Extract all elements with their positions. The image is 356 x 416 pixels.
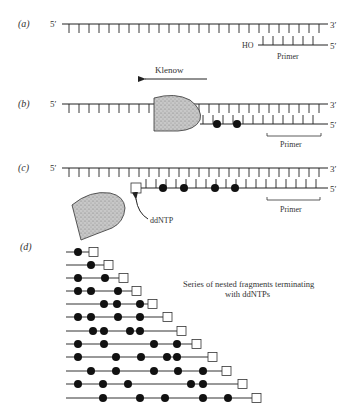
nested-fragments [66, 248, 261, 403]
labeled-nucleotide-dot [136, 327, 144, 335]
panel-a: (a) 5′ 3′ HO 5′ Primer Klenow [18, 18, 337, 79]
labeled-nucleotide-dot [211, 184, 219, 192]
panel-a-label: (a) [18, 18, 30, 30]
ddntp-label: ddNTP [150, 216, 174, 225]
labeled-nucleotide-dot [136, 313, 144, 321]
ddntp-square-icon [148, 300, 157, 309]
labeled-nucleotide-dot [173, 353, 181, 361]
template-3-prime-label: 3′ [330, 100, 337, 110]
labeled-nucleotide-dot [87, 261, 95, 269]
panel-c-label: (c) [18, 162, 30, 174]
labeled-nucleotide-dot [99, 380, 107, 388]
template-5-prime-label: 5′ [50, 163, 57, 173]
labeled-nucleotide-dot [187, 380, 195, 388]
labeled-nucleotide-dot [163, 353, 171, 361]
fragment-row [66, 340, 201, 349]
labeled-nucleotide-dot [150, 367, 158, 375]
template-3-prime-label: 3′ [330, 164, 337, 174]
ddntp-square-icon [222, 367, 231, 376]
labeled-nucleotide-dot [231, 184, 239, 192]
ddntp-square-icon [104, 261, 113, 270]
primer-base-ticks [263, 36, 313, 45]
labeled-nucleotide-dot [136, 394, 144, 402]
labeled-nucleotide-dot [74, 287, 82, 295]
labeled-nucleotide-dot [137, 353, 145, 361]
labeled-nucleotide-dot [136, 300, 144, 308]
labeled-nucleotide-dot [161, 394, 169, 402]
ddntp-square-icon [163, 313, 172, 322]
ddntp-square-icon [89, 248, 98, 257]
template-base-ticks [69, 168, 319, 177]
template-5-prime-label: 5′ [50, 19, 57, 29]
labeled-nucleotide-dot [199, 367, 207, 375]
fragment-row [66, 367, 231, 376]
labeled-nucleotide-dot [74, 340, 82, 348]
panel-d: (d) Series of nested fragments terminati… [20, 241, 315, 403]
klenow-enzyme-icon [154, 95, 201, 131]
klenow-label: Klenow [155, 65, 184, 75]
labeled-nucleotide-dot [87, 313, 95, 321]
template-5-prime-label: 5′ [50, 99, 57, 109]
labeled-nucleotide-dot [74, 248, 82, 256]
panel-c: (c) 5′ 3′ 5′ Primer ddNTP [18, 162, 337, 240]
labeled-nucleotide-dot [213, 120, 221, 128]
sanger-sequencing-diagram: (a) 5′ 3′ HO 5′ Primer Klenow (b) 5′ 3′ … [0, 0, 356, 416]
fragment-row [66, 300, 157, 309]
primer-5-prime-label: 5′ [330, 41, 337, 51]
labeled-nucleotide-dot [87, 287, 95, 295]
fragment-row [66, 248, 98, 257]
fragment-row [66, 353, 217, 362]
ddntp-square-icon [252, 394, 261, 403]
ddntp-square-icon [131, 183, 141, 193]
terminated-5-prime-label: 5′ [330, 184, 337, 194]
labeled-nucleotide-dot [100, 340, 108, 348]
labeled-nucleotide-dot [101, 274, 109, 282]
terminated-strand-ticks [146, 179, 316, 188]
released-klenow-enzyme-icon [72, 193, 125, 241]
fragment-row [66, 380, 247, 389]
labeled-nucleotide-dot [159, 184, 167, 192]
labeled-nucleotide-dot [74, 274, 82, 282]
labeled-nucleotide-dot [112, 353, 120, 361]
labeled-nucleotide-dot [174, 367, 182, 375]
ddntp-square-icon [192, 340, 201, 349]
panel-b: (b) 5′ 3′ 5′ Primer [18, 95, 337, 149]
labeled-nucleotide-dot [233, 120, 241, 128]
fragment-row [66, 287, 141, 296]
labeled-nucleotide-dot [99, 394, 107, 402]
ddntp-square-icon [132, 287, 141, 296]
template-base-ticks [69, 24, 319, 33]
primer-bracket [267, 197, 320, 200]
fragment-row [66, 327, 186, 336]
caption-line-1: Series of nested fragments terminating [183, 279, 315, 289]
labeled-nucleotide-dot [74, 380, 82, 388]
primer-label: Primer [277, 52, 299, 61]
ddntp-square-icon [208, 353, 217, 362]
labeled-nucleotide-dot [74, 353, 82, 361]
fragment-row [66, 274, 128, 283]
primer-label: Primer [280, 140, 302, 149]
labeled-nucleotide-dot [112, 367, 120, 375]
template-3-prime-label: 3′ [330, 20, 337, 30]
fragment-row [66, 313, 172, 322]
labeled-nucleotide-dot [114, 287, 122, 295]
labeled-nucleotide-dot [199, 380, 207, 388]
ddntp-square-icon [238, 380, 247, 389]
labeled-nucleotide-dot [74, 313, 82, 321]
labeled-nucleotide-dot [173, 340, 181, 348]
panel-b-label: (b) [18, 98, 30, 110]
primer-ho-label: HO [242, 41, 254, 50]
labeled-nucleotide-dot [89, 327, 97, 335]
fragment-row [66, 394, 261, 403]
labeled-nucleotide-dot [87, 367, 95, 375]
ddntp-square-icon [177, 327, 186, 336]
labeled-nucleotide-dot [224, 394, 232, 402]
labeled-nucleotide-dot [114, 313, 122, 321]
panel-d-label: (d) [20, 241, 32, 253]
ddntp-square-icon [119, 274, 128, 283]
labeled-nucleotide-dot [199, 394, 207, 402]
labeled-nucleotide-dot [180, 184, 188, 192]
labeled-nucleotide-dot [100, 327, 108, 335]
primer-bracket [267, 133, 321, 136]
labeled-nucleotide-dot [126, 327, 134, 335]
